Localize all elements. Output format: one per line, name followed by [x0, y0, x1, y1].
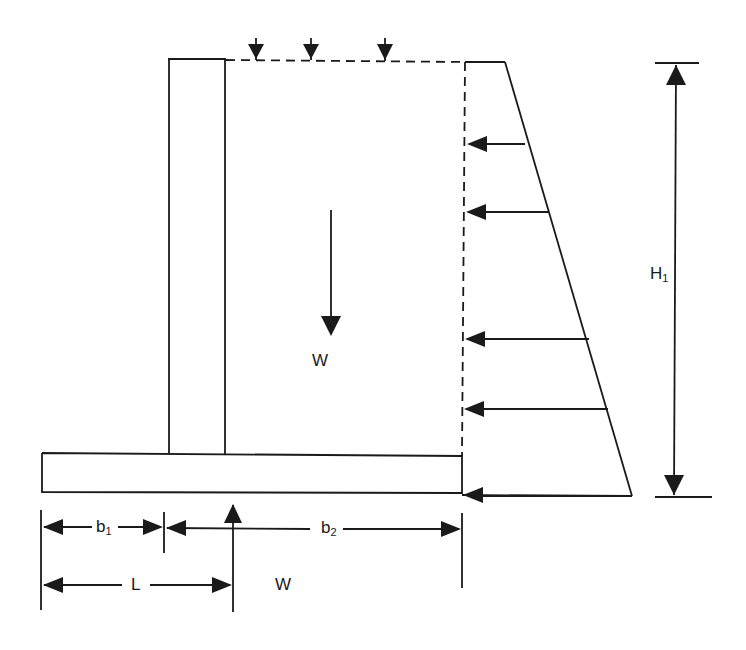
surcharge-arrow-icon — [248, 38, 264, 60]
surcharge-arrows — [248, 38, 393, 61]
retaining-wall-diagram — [0, 0, 746, 650]
lever-arm-label: L — [131, 576, 140, 593]
soil-weight-label: W — [312, 352, 328, 369]
reaction-weight-label: W — [275, 576, 291, 593]
heel-width-label-sub: 2 — [330, 526, 336, 538]
weight-arrow-icon — [321, 210, 341, 336]
footing-slab — [42, 453, 462, 493]
heel-width-label: b2 — [321, 519, 337, 538]
surcharge-arrow-icon — [377, 38, 393, 61]
pressure-arrow-icon — [465, 331, 589, 347]
earth-pressure-diagram — [462, 62, 632, 496]
height-label-sub: 1 — [662, 272, 668, 284]
pressure-arrow-icon — [466, 204, 549, 220]
wall-stem — [168, 59, 226, 454]
pressure-arrow-icon — [467, 136, 525, 152]
pressure-arrow-icon — [464, 401, 608, 417]
toe-width-label: b1 — [96, 518, 112, 537]
backfill-boundary — [226, 60, 505, 456]
lateral-pressure-arrows — [463, 136, 632, 503]
height-label-base: H — [650, 264, 662, 283]
surcharge-arrow-icon — [303, 38, 319, 60]
height-label: H1 — [650, 265, 668, 284]
toe-width-label-sub: 1 — [105, 525, 111, 537]
